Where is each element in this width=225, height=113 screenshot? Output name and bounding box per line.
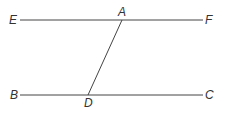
line-AD [88,20,122,95]
parallel-lines-diagram: E A F B D C [0,0,225,113]
label-F: F [205,13,213,27]
label-A: A [117,5,126,19]
label-C: C [205,88,214,102]
label-D: D [84,96,93,110]
label-B: B [10,88,18,102]
label-E: E [9,13,18,27]
